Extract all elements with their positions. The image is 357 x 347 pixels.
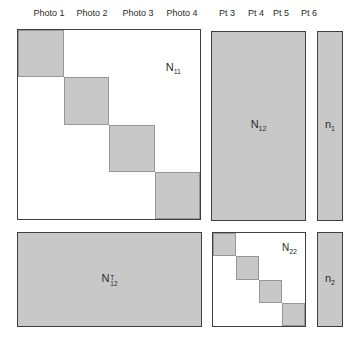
n22-label: N22	[282, 243, 297, 255]
n22-matrix: N22	[212, 232, 306, 327]
photo-3-label: Photo 3	[118, 7, 158, 20]
photo-2-label: Photo 2	[72, 7, 112, 20]
n22-diagonal-block-3	[259, 280, 282, 303]
n22-diagonal-block-2	[236, 256, 259, 279]
n11-diagonal-block-4	[155, 172, 201, 219]
matrix-structure-figure: Photo 1 Photo 2 Photo 3 Photo 4 Pt 3 Pt …	[0, 0, 357, 347]
pt-5-label: Pt 5	[267, 7, 295, 20]
n11-label: N11	[166, 62, 181, 75]
n22-diagonal-block-4	[282, 303, 305, 326]
n11-matrix: N11	[17, 29, 201, 220]
n11-diagonal-block-3	[109, 125, 155, 172]
pt-4-label: Pt 4	[242, 7, 270, 20]
n2-label: n2	[325, 273, 335, 286]
photo-1-label: Photo 1	[29, 7, 69, 20]
n22-diagonal-block-1	[213, 233, 236, 256]
n11-diagonal-block-2	[64, 77, 110, 124]
pt-6-label: Pt 6	[295, 7, 323, 20]
n1-label: n1	[325, 119, 335, 132]
n12-matrix: N12	[211, 31, 306, 221]
n12-transpose-matrix: NT12	[17, 232, 202, 327]
n2-vector: n2	[317, 232, 343, 327]
pt-3-label: Pt 3	[213, 7, 241, 20]
n1-vector: n1	[317, 31, 343, 221]
n12-transpose-label: NT12	[101, 273, 117, 285]
n12-label: N12	[251, 119, 267, 132]
photo-4-label: Photo 4	[162, 7, 202, 20]
n11-diagonal-block-1	[18, 30, 64, 77]
